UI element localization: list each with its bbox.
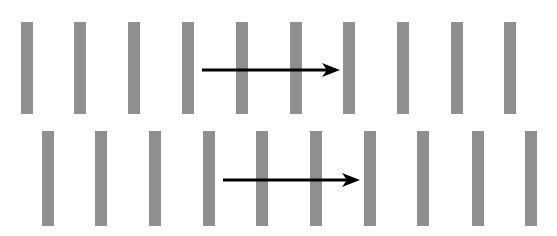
- arrow-right-icon: [223, 173, 360, 187]
- arrows-layer: [0, 0, 557, 236]
- arrow-right-icon: [202, 63, 340, 77]
